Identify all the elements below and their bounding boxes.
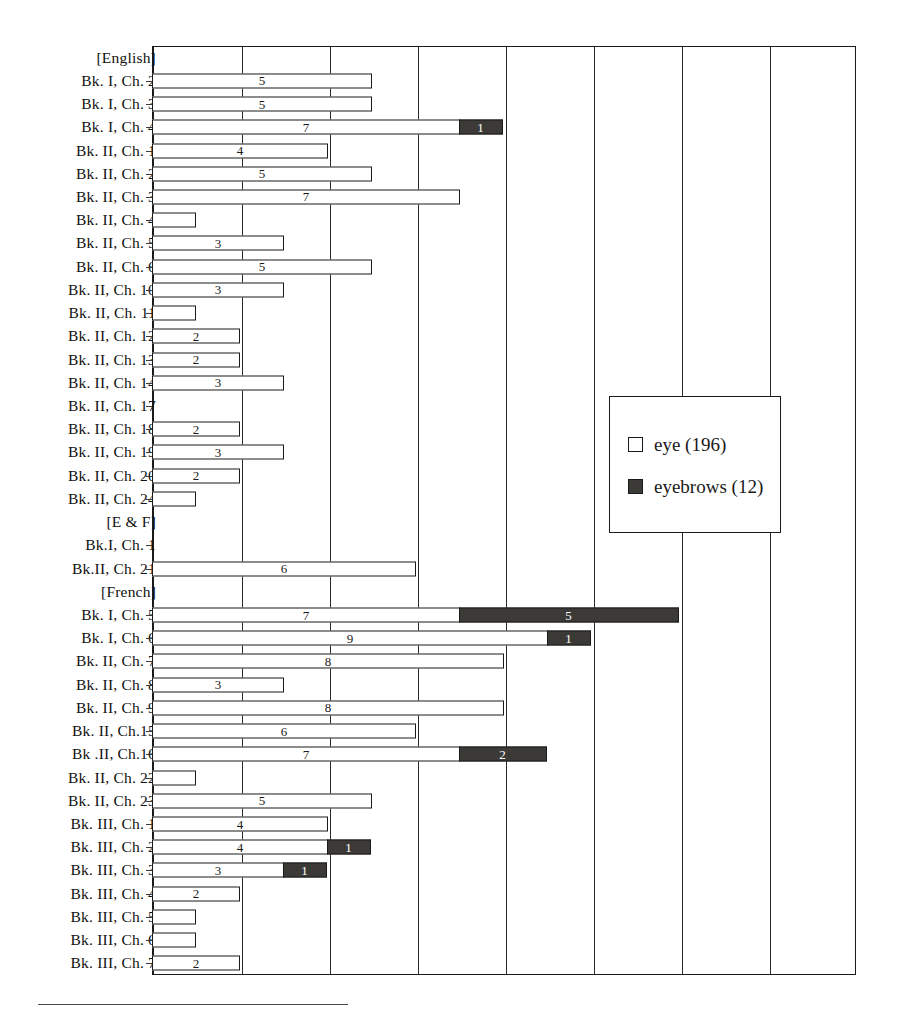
stacked-bar [152,933,196,948]
stacked-bar: 72 [152,747,547,762]
stacked-bar: 5 [152,97,372,112]
bar-segment-eye: 2 [152,468,240,483]
dark-square-icon [628,479,643,494]
row-label: Bk. III, Ch. 2 [71,840,156,856]
stacked-bar: 3 [152,236,284,251]
chart-row: Bk. II, Ch. 25 [0,162,898,185]
chart-row: Bk .II, Ch.1672 [0,743,898,766]
bar-segment-eye [152,213,196,228]
row-label: Bk. II, Ch. 9 [76,700,156,716]
row-label: Bk. II, Ch. 6 [76,259,156,275]
row-label: Bk. III, Ch. 6 [71,932,156,948]
stacked-bar [152,770,196,785]
bar-segment-eye: 5 [152,793,372,808]
bar-value-eye: 5 [259,74,266,87]
section-header-label: [English] [97,50,157,66]
bar-value-eye: 5 [259,794,266,807]
row-label: Bk. II, Ch. 20 [68,468,156,484]
section-header-label: [E & F] [106,514,156,530]
legend-label-eyebrows: eyebrows (12) [654,477,763,496]
stacked-bar [152,909,196,924]
row-label: Bk. II, Ch. 3 [76,189,156,205]
bar-segment-eye: 2 [152,422,240,437]
bar-segment-eyebrows: 2 [459,747,547,762]
row-label: Bk. II, Ch. 4 [76,212,156,228]
stacked-bar [152,213,196,228]
bar-value-eyebrows: 5 [565,609,572,622]
bar-segment-eye: 7 [152,747,460,762]
chart-row: Bk.I, Ch. 1 [0,534,898,557]
chart-row: Bk. III, Ch. 72 [0,952,898,975]
stacked-bar: 41 [152,840,371,855]
row-label: Bk. II, Ch. 2 [76,166,156,182]
stacked-bar: 2 [152,886,240,901]
stacked-bar: 2 [152,956,240,971]
stacked-bar: 2 [152,329,240,344]
stacked-bar: 31 [152,863,327,878]
bar-value-eye: 2 [193,469,200,482]
chart-row: Bk. I, Ch. 691 [0,627,898,650]
bar-value-eye: 2 [193,330,200,343]
chart-row: Bk. I, Ch. 25 [0,69,898,92]
row-label: Bk. II, Ch. 22 [68,770,156,786]
chart-row: Bk. II, Ch. 98 [0,696,898,719]
chart-row: Bk. III, Ch. 14 [0,812,898,835]
bar-value-eye: 4 [237,818,244,831]
legend-label-eye: eye (196) [654,435,726,454]
row-label: Bk. II, Ch. 11 [69,305,156,321]
chart-row: Bk. II, Ch. 22 [0,766,898,789]
row-label: Bk. II, Ch. 17 [68,398,156,414]
bar-segment-eyebrows: 5 [459,608,679,623]
bar-segment-eye: 8 [152,700,504,715]
section-header-row: [French] [0,580,898,603]
section-header-label: [French] [101,584,156,600]
bar-segment-eyebrows: 1 [327,840,371,855]
stacked-bar: 4 [152,143,328,158]
stacked-bar: 8 [152,654,504,669]
bar-value-eyebrows: 1 [565,632,572,645]
stacked-bar: 7 [152,189,460,204]
stacked-bar: 6 [152,724,416,739]
stacked-bar [152,491,196,506]
row-label: Bk. I, Ch. 4 [81,120,156,136]
bar-segment-eye: 2 [152,956,240,971]
bar-segment-eye: 5 [152,259,372,274]
stacked-bar: 3 [152,375,284,390]
stacked-bar: 2 [152,352,240,367]
bar-value-eye: 3 [215,678,222,691]
chart-legend: eye (196)eyebrows (12) [609,396,781,533]
chart-row: Bk. III, Ch. 331 [0,859,898,882]
bar-value-eye: 3 [215,864,222,877]
bar-value-eye: 4 [237,144,244,157]
section-header-row: [English] [0,46,898,69]
bar-segment-eye: 6 [152,561,416,576]
bar-segment-eye: 2 [152,352,240,367]
bar-segment-eye: 2 [152,886,240,901]
bar-value-eye: 3 [215,237,222,250]
bar-segment-eyebrows: 1 [459,120,503,135]
bar-segment-eye [152,491,196,506]
row-label: Bk. II, Ch. 23 [68,793,156,809]
stacked-bar: 4 [152,817,328,832]
bar-value-eye: 5 [259,98,266,111]
chart-row: Bk. I, Ch. 35 [0,92,898,115]
bar-segment-eye: 4 [152,143,328,158]
row-label: Bk. I, Ch. 3 [81,96,156,112]
row-label: Bk. II, Ch. 7 [76,654,156,670]
bar-value-eye: 6 [281,562,288,575]
bar-segment-eye: 3 [152,677,284,692]
row-label: Bk. III, Ch. 3 [71,863,156,879]
bar-value-eye: 8 [325,701,332,714]
bar-segment-eye: 5 [152,97,372,112]
stacked-bar: 5 [152,793,372,808]
chart-row: Bk. II, Ch. 37 [0,185,898,208]
chart-row: Bk. II, Ch. 65 [0,255,898,278]
chart-row: Bk. II, Ch. 11 [0,301,898,324]
row-label: Bk.II, Ch. 21 [72,561,156,577]
legend-item-eye: eye (196) [628,423,780,465]
stacked-bar: 2 [152,468,240,483]
bar-segment-eye: 5 [152,73,372,88]
chart-row: Bk. II, Ch. 122 [0,325,898,348]
chart-row: Bk. II, Ch. 143 [0,371,898,394]
row-label: Bk. II, Ch. 13 [68,352,156,368]
